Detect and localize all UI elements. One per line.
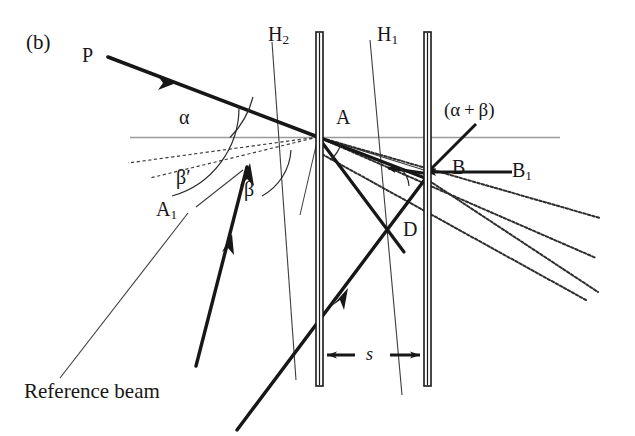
panel-label: (b) [26, 32, 51, 53]
angle-alpha-label: α [179, 107, 189, 127]
hologram-h2-label: H2 [268, 24, 289, 47]
incident-beam-label-p: P [82, 45, 93, 65]
hologram-h2-sub: 2 [282, 32, 289, 47]
point-a1-sub: 1 [170, 207, 177, 222]
reference-beam-caption: Reference beam [24, 381, 160, 402]
point-b1-base: B [512, 159, 525, 181]
hologram-plate-h1 [424, 32, 431, 386]
angle-beta-prime-label: β′ [176, 167, 191, 187]
point-b1-sub: 1 [525, 168, 532, 183]
hologram-h1-base: H [377, 23, 391, 45]
figure-canvas: (b) P α β′ β (α + β) A A1 B B1 D H2 H1 s… [0, 0, 635, 436]
point-b1-label: B1 [512, 160, 532, 183]
separation-label-s: s [366, 345, 373, 363]
point-b-label: B [452, 157, 465, 177]
angle-arcs [172, 97, 409, 196]
ray-diagram-svg [0, 0, 635, 436]
point-a-label: A [336, 107, 350, 127]
angle-alpha-plus-beta-label: (α + β) [444, 100, 495, 119]
hologram-plate-h2 [316, 32, 323, 386]
hologram-h1-sub: 1 [391, 32, 398, 47]
construction-lines [60, 40, 424, 395]
hologram-h1-label: H1 [377, 24, 398, 47]
angle-beta-label: β [244, 179, 254, 199]
hologram-h2-base: H [268, 23, 282, 45]
point-d-label: D [403, 219, 417, 239]
point-a1-base: A [156, 198, 170, 220]
reference-beam-ray-2 [237, 170, 432, 430]
point-a1-label: A1 [156, 199, 177, 222]
